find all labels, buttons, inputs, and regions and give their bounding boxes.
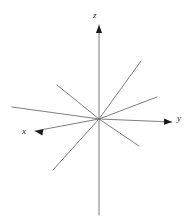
ray-lower-right-diagonal: [99, 119, 139, 146]
axis-label-x: x: [22, 127, 26, 136]
y-axis: [99, 119, 172, 122]
y-axis-arrowhead: [164, 119, 172, 125]
axis-label-z: z: [93, 11, 97, 20]
ray-upper-right-steep: [99, 61, 141, 119]
ray-upper-right-shallow: [99, 97, 157, 119]
axis-label-y: y: [177, 114, 181, 123]
x-axis-arrowhead: [35, 129, 43, 135]
ray-group: [12, 61, 157, 170]
axes-canvas: [0, 0, 189, 224]
axes-figure: z y x: [0, 0, 189, 224]
z-axis-arrowhead: [96, 25, 102, 33]
axis-group: [35, 25, 172, 215]
